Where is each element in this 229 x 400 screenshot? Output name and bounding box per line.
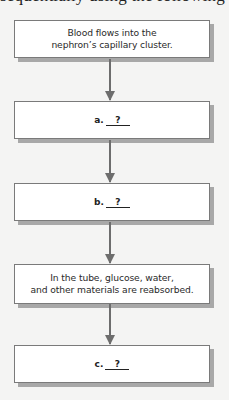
- step-c-blank: c.?: [95, 359, 130, 370]
- flow-box-step-b: b.?: [14, 183, 210, 221]
- arrow-down-icon: [109, 222, 111, 263]
- arrow-down-icon: [109, 304, 111, 344]
- cutoff-header-text: sequentially using the following graphic: [0, 0, 229, 6]
- step-a-blank: a.?: [94, 115, 130, 126]
- step-4-text: In the tube, glucose, water, and other m…: [30, 272, 193, 296]
- step-b-blank: b.?: [94, 197, 130, 208]
- step-b-answer-blank: ?: [106, 197, 130, 208]
- flow-box-step-c: c.?: [14, 345, 210, 383]
- step-a-label: a.: [94, 115, 104, 125]
- step-b-label: b.: [94, 197, 104, 207]
- flow-box-step-reabsorption: In the tube, glucose, water, and other m…: [14, 264, 210, 304]
- step-c-answer-blank: ?: [105, 359, 129, 370]
- step-a-answer-blank: ?: [106, 115, 130, 126]
- arrow-down-icon: [109, 140, 111, 182]
- arrow-down-icon: [109, 59, 111, 100]
- step-c-label: c.: [95, 359, 104, 369]
- flow-box-step-1: Blood flows into the nephron’s capillary…: [14, 20, 210, 58]
- step-1-text: Blood flows into the nephron’s capillary…: [51, 27, 172, 51]
- flow-box-step-a: a.?: [14, 101, 210, 139]
